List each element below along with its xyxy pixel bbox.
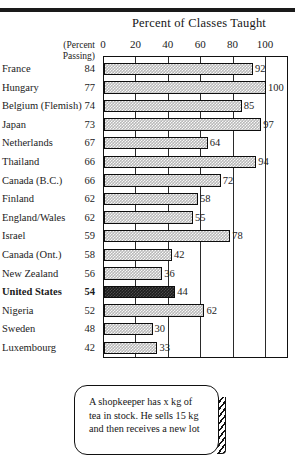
bar[interactable]: [104, 286, 175, 299]
bar[interactable]: [104, 249, 172, 262]
x-tick-label-40: 40: [162, 38, 173, 50]
bar-value-label: 30: [155, 322, 166, 335]
row-percent-passing-value: 59: [62, 229, 95, 242]
bar[interactable]: [104, 100, 242, 113]
chart-row[interactable]: England/Wales6255: [0, 209, 295, 228]
bar[interactable]: [104, 211, 193, 224]
chart-row[interactable]: France8492: [0, 60, 295, 79]
chart-row[interactable]: Luxembourg4233: [0, 339, 295, 358]
chart-row[interactable]: Hungary77100: [0, 79, 295, 98]
bar-value-label: 36: [164, 267, 175, 280]
chart-row[interactable]: Belgium (Flemish)7485: [0, 97, 295, 116]
bar-value-label: 64: [210, 136, 221, 149]
x-tick-label-20: 20: [130, 38, 141, 50]
chart-title: Percent of Classes Taught: [103, 16, 295, 31]
row-percent-passing-value: 62: [62, 192, 95, 205]
x-tick-label-100: 100: [257, 38, 274, 50]
chart-row[interactable]: Israel5978: [0, 227, 295, 246]
row-percent-passing-value: 58: [62, 248, 95, 261]
bar-value-label: 72: [223, 174, 234, 187]
x-tick-label-0: 0: [100, 38, 106, 50]
row-percent-passing-value: 52: [62, 304, 95, 317]
bar[interactable]: [104, 118, 261, 131]
bar-value-label: 100: [268, 81, 284, 94]
bar[interactable]: [104, 81, 266, 94]
row-percent-passing-value: 62: [62, 211, 95, 224]
bar[interactable]: [104, 230, 230, 243]
caption-text: A shopkeeper has x kg of tea in stock. H…: [89, 395, 204, 436]
bar[interactable]: [104, 342, 157, 355]
bar[interactable]: [104, 137, 208, 150]
bar-value-label: 94: [258, 155, 269, 168]
bar[interactable]: [104, 156, 256, 169]
row-percent-passing-value: 48: [62, 322, 95, 335]
bar-value-label: 97: [263, 118, 274, 131]
bar-value-label: 85: [244, 99, 255, 112]
bar-value-label: 42: [174, 248, 185, 261]
bar-value-label: 44: [177, 285, 188, 298]
chart-row[interactable]: New Zealand5636: [0, 265, 295, 284]
row-percent-passing-value: 42: [62, 341, 95, 354]
chart-row[interactable]: Sweden4830: [0, 320, 295, 339]
bar[interactable]: [104, 63, 253, 76]
chart-row[interactable]: Canada (B.C.)6672: [0, 172, 295, 191]
header-rule: [0, 8, 295, 12]
bar-value-label: 92: [255, 62, 266, 75]
x-axis-tick-labels: 020406080100: [0, 38, 295, 52]
chart-row[interactable]: United States5444: [0, 283, 295, 302]
row-percent-passing-value: 54: [62, 285, 95, 298]
chart-row[interactable]: Japan7397: [0, 116, 295, 135]
bar-value-label: 62: [206, 304, 217, 317]
row-percent-passing-value: 67: [62, 136, 95, 149]
chart-row[interactable]: Netherlands6764: [0, 134, 295, 153]
chart-row[interactable]: Canada (Ont.)5842: [0, 246, 295, 265]
row-percent-passing-value: 66: [62, 174, 95, 187]
bar[interactable]: [104, 323, 153, 336]
caption-box: A shopkeeper has x kg of tea in stock. H…: [74, 385, 219, 455]
row-percent-passing-value: 56: [62, 267, 95, 280]
x-tick-label-80: 80: [227, 38, 238, 50]
row-percent-passing-value: 66: [62, 155, 95, 168]
bar-value-label: 55: [195, 211, 206, 224]
row-percent-passing-value: 74: [62, 99, 95, 112]
bar-value-label: 58: [200, 192, 211, 205]
bar[interactable]: [104, 174, 221, 187]
bar-value-label: 33: [159, 341, 170, 354]
chart-row[interactable]: Nigeria5262: [0, 302, 295, 321]
row-percent-passing-value: 73: [62, 118, 95, 131]
row-percent-passing-value: 84: [62, 62, 95, 75]
bar-value-label: 78: [232, 229, 243, 242]
bar[interactable]: [104, 193, 198, 206]
bar[interactable]: [104, 304, 204, 317]
bar[interactable]: [104, 267, 162, 280]
row-percent-passing-value: 77: [62, 81, 95, 94]
chart-row[interactable]: Thailand6694: [0, 153, 295, 172]
chart-row[interactable]: Finland6258: [0, 190, 295, 209]
x-tick-label-60: 60: [195, 38, 206, 50]
